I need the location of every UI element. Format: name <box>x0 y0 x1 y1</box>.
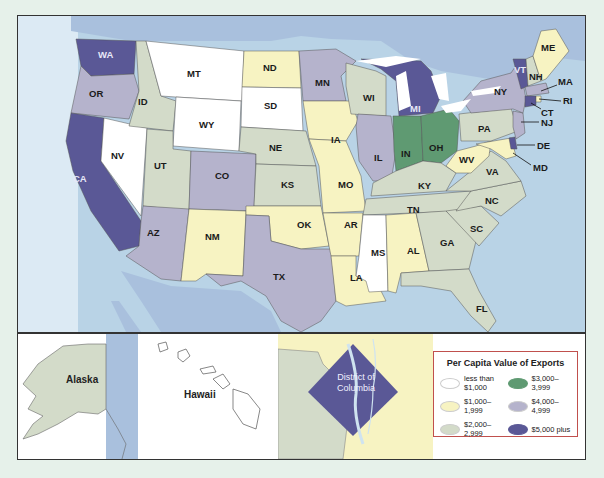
legend-label: $1,000–1,999 <box>464 397 504 415</box>
label-MD: MD <box>533 162 548 173</box>
label-ND: ND <box>263 62 277 73</box>
state-NM <box>181 209 246 281</box>
label-AZ: AZ <box>147 227 160 238</box>
label-OH: OH <box>429 142 443 153</box>
label-SC: SC <box>470 223 483 234</box>
label-OR: OR <box>89 88 103 99</box>
legend-item: $1,000–1,999 <box>440 397 504 415</box>
label-WI: WI <box>363 92 375 103</box>
label-VA: VA <box>486 166 499 177</box>
label-KS: KS <box>281 179 294 190</box>
label-AR: AR <box>344 219 358 230</box>
label-MO: MO <box>338 179 353 190</box>
hawaii-label: Hawaii <box>184 389 216 400</box>
label-MT: MT <box>187 68 201 79</box>
label-NJ: NJ <box>541 117 553 128</box>
label-CO: CO <box>215 170 229 181</box>
hawaii-inset: Hawaii <box>138 334 278 459</box>
label-DE: DE <box>537 140 550 151</box>
label-WY: WY <box>199 119 215 130</box>
label-TN: TN <box>407 204 420 215</box>
label-MN: MN <box>315 77 330 88</box>
dc-inset: District of Columbia <box>278 334 433 459</box>
alaska-inset: Alaska <box>18 334 138 459</box>
label-RI: RI <box>563 95 573 106</box>
map-frame: WA OR CA NV ID MT WY UT CO AZ NM ND SD N… <box>17 15 586 460</box>
swatch-5000-plus <box>508 424 528 435</box>
label-SD: SD <box>264 100 277 111</box>
label-TX: TX <box>273 271 286 282</box>
legend-title: Per Capita Value of Exports <box>440 358 571 368</box>
label-IN: IN <box>401 148 411 159</box>
label-MI: MI <box>410 103 421 114</box>
legend-label: $3,000–3,999 <box>532 374 572 392</box>
label-MS: MS <box>371 247 385 258</box>
legend-item: $2,000–2,999 <box>440 420 504 438</box>
label-WA: WA <box>98 49 113 60</box>
state-CO <box>189 151 256 211</box>
legend-label: less than $1,000 <box>464 374 504 392</box>
legend-label: $4,000–4,999 <box>532 397 572 415</box>
label-OK: OK <box>297 219 311 230</box>
label-LA: LA <box>350 272 363 283</box>
us-main-map: WA OR CA NV ID MT WY UT CO AZ NM ND SD N… <box>18 16 585 334</box>
legend-label: $2,000–2,999 <box>464 420 504 438</box>
legend-label: $5,000 plus <box>532 425 571 434</box>
dc-label: District of Columbia <box>326 372 386 394</box>
label-NC: NC <box>485 195 499 206</box>
label-CA: CA <box>73 173 87 184</box>
legend-item: $4,000–4,999 <box>508 397 572 415</box>
label-FL: FL <box>476 303 488 314</box>
swatch-under-1000 <box>440 378 460 389</box>
legend: Per Capita Value of Exports less than $1… <box>433 351 578 437</box>
legend-item: $3,000–3,999 <box>508 374 572 392</box>
label-MA: MA <box>558 76 573 87</box>
label-NE: NE <box>269 142 282 153</box>
label-UT: UT <box>154 160 167 171</box>
label-ME: ME <box>541 42 555 53</box>
dc-label-line2: Columbia <box>326 383 386 394</box>
dc-label-line1: District of <box>326 372 386 383</box>
label-NM: NM <box>205 231 220 242</box>
label-VT: VT <box>514 64 526 75</box>
label-WV: WV <box>459 154 475 165</box>
alaska-label: Alaska <box>66 374 98 385</box>
label-NV: NV <box>111 150 125 161</box>
label-GA: GA <box>440 237 454 248</box>
legend-item: $5,000 plus <box>508 420 572 438</box>
label-IA: IA <box>331 134 341 145</box>
label-PA: PA <box>478 123 491 134</box>
label-ID: ID <box>138 96 148 107</box>
swatch-2000-2999 <box>440 424 460 435</box>
swatch-1000-1999 <box>440 401 460 412</box>
legend-item: less than $1,000 <box>440 374 504 392</box>
label-NH: NH <box>529 71 543 82</box>
insets-panel: Alaska Hawaii District of Columb <box>18 334 585 459</box>
label-AL: AL <box>407 245 420 256</box>
label-NY: NY <box>494 86 508 97</box>
swatch-4000-4999 <box>508 401 528 412</box>
label-IL: IL <box>374 152 383 163</box>
label-KY: KY <box>418 180 432 191</box>
swatch-3000-3999 <box>508 378 528 389</box>
